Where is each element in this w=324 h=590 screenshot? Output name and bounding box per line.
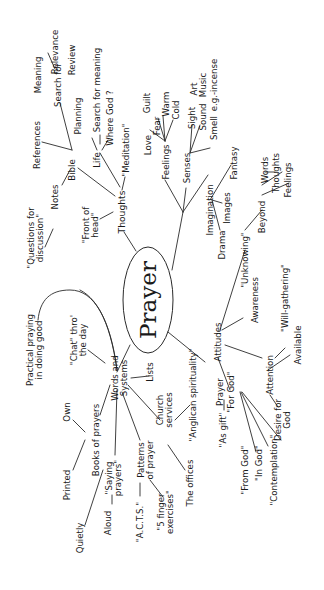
node-practical-praying: Practical praying in doing good [26,310,43,390]
node-love: Love [144,135,153,155]
node-chat-thro-the-day: "Chat" thro' the day [70,312,87,368]
node-senses: Senses [183,153,192,183]
node-feelings-beyond: Feelings [284,162,293,197]
node-notes: Notes [51,185,60,210]
node-review: Review [68,45,77,76]
node-will-gathering: "Will-gathering" [281,264,290,332]
node-life: Life [93,152,102,168]
node-contemplation: "Contemplation" [270,434,279,505]
node-images: Images [223,192,232,223]
node-awareness: Awareness [251,277,260,323]
node-guilt: Guilt [143,93,152,113]
node-planning: Planning [74,97,83,134]
node-imagination: Imagination [206,184,215,235]
node-meditation: "Meditation" [122,123,131,177]
node-front-of-head: "Front of head" [82,204,99,246]
node-attitudes: Attitudes [214,323,223,362]
node-prayer-sub: Prayer [216,378,225,406]
node-patterns-of-prayer: Patterns of prayer [137,438,154,482]
node-saying-prayers: "Saying prayers" [105,456,122,500]
node-incense: e.g.-incense [210,59,219,111]
node-books-of-prayers: Books of prayers [92,404,101,476]
node-sound: Sound [199,103,208,130]
node-church-services: Church services [156,388,173,432]
node-for-god: "For God" [227,371,236,412]
node-quietly: Quietly [76,523,85,554]
node-cold: Cold [172,100,181,119]
node-available: Available [294,326,303,365]
node-lists: Lists [146,362,155,382]
node-smell: Smell [210,116,219,140]
node-acts: "A.C.T.S." [136,502,145,542]
node-printed: Printed [63,470,72,501]
node-feelings: Feelings [162,144,171,179]
node-questions-for-discussion: "Questions for discussion" [27,206,44,270]
node-as-gift: "As gift" [219,412,228,447]
mind-map: Prayer Thoughts "Front of head" "Meditat… [0,0,324,590]
node-from-god: "From God" [241,445,250,494]
center-topic-prayer: Prayer [136,261,160,339]
node-warm: Warm [162,92,171,117]
node-words: Words [261,157,270,184]
node-anglican-spirituality: "Anglican spirituality" [189,348,198,441]
node-attention: Attention [266,355,275,395]
node-own: Own [63,402,72,421]
node-music: Music [199,73,208,97]
node-thoughts-beyond: Thoughts [272,153,281,193]
node-search-for-meaning: Search for meaning [93,48,102,132]
node-thoughts: Thoughts [117,191,126,234]
node-meaning: Meaning [34,57,43,94]
node-unknowing: "Unknowing" [241,232,250,288]
node-where-god: Where God ? [106,90,115,145]
node-in-god: "In God" [255,445,264,481]
node-fantasy: Fantasy [230,146,239,179]
node-sight: Sight [188,107,197,129]
node-drama: Drama [218,230,227,259]
node-bible: Bible [68,159,77,180]
node-fear: Fear [153,117,162,136]
node-the-offices: The offices [186,460,195,507]
node-relevance: Relevance [51,30,60,74]
node-aloud: Aloud [104,511,113,535]
node-5-finger-exercises: "5 finger exercises" [157,488,174,536]
node-beyond: Beyond [258,201,267,233]
node-words-and-systems: Words and Systems [111,352,128,404]
node-references: References [33,121,42,169]
